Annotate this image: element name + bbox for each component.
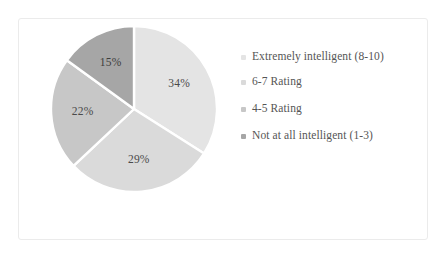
legend-item-label: Not at all intelligent (1-3) [252, 128, 373, 142]
legend-swatch-icon [241, 55, 246, 60]
legend-item-4-5-rating[interactable]: 4-5 Rating [241, 101, 427, 115]
legend-swatch-icon [241, 134, 246, 139]
legend-swatch-icon [241, 80, 246, 85]
legend-item-extremely-intelligent[interactable]: Extremely intelligent (8-10) [241, 49, 427, 63]
pie-chart: 34%29%22%15% [50, 25, 218, 193]
chart-legend: Extremely intelligent (8-10) 6-7 Rating … [241, 49, 427, 153]
pie-chart-area: 34%29%22%15% [19, 19, 241, 239]
legend-item-label: Extremely intelligent (8-10) [252, 49, 384, 63]
pie-data-label: 22% [72, 105, 94, 117]
legend-item-6-7-rating[interactable]: 6-7 Rating [241, 74, 427, 88]
legend-swatch-icon [241, 107, 246, 112]
pie-data-label: 29% [128, 153, 150, 165]
legend-item-label: 4-5 Rating [252, 101, 302, 115]
chart-card: 34%29%22%15% Extremely intelligent (8-10… [18, 18, 428, 240]
legend-item-not-at-all-intelligent[interactable]: Not at all intelligent (1-3) [241, 128, 427, 142]
pie-data-label: 34% [168, 77, 190, 89]
pie-data-label: 15% [100, 56, 122, 68]
legend-item-label: 6-7 Rating [252, 74, 302, 88]
